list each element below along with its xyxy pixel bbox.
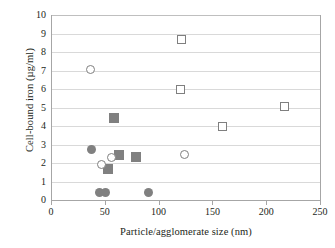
x-tick-label: 0 xyxy=(36,207,66,217)
y-tick-label: 2 xyxy=(24,158,46,168)
x-tick-label: 250 xyxy=(305,207,335,217)
plot-right-border xyxy=(320,15,321,201)
gridline-y xyxy=(51,89,320,90)
data-point-filled-circle xyxy=(87,145,96,154)
y-tick-label: 7 xyxy=(24,66,46,76)
data-point-open-square xyxy=(176,85,185,94)
gridline-y xyxy=(51,182,320,183)
x-tick xyxy=(105,201,106,205)
x-tick-label: 50 xyxy=(90,207,120,217)
y-tick-label: 1 xyxy=(24,177,46,187)
data-point-filled-square xyxy=(109,113,119,123)
y-tick-label: 6 xyxy=(24,84,46,94)
data-point-filled-square xyxy=(131,152,141,162)
y-tick-label: 8 xyxy=(24,47,46,57)
x-tick xyxy=(159,201,160,205)
x-tick-label: 200 xyxy=(251,207,281,217)
data-point-open-square xyxy=(280,102,289,111)
data-point-open-circle xyxy=(107,153,116,162)
x-axis-line xyxy=(51,200,321,201)
y-axis-line xyxy=(51,15,52,201)
x-tick-label: 150 xyxy=(197,207,227,217)
gridline-y xyxy=(51,52,320,53)
gridline-y xyxy=(51,163,320,164)
y-tick-label: 10 xyxy=(24,10,46,20)
data-point-open-square xyxy=(177,35,186,44)
gridline-y xyxy=(51,126,320,127)
x-tick xyxy=(51,201,52,205)
data-point-open-circle xyxy=(86,65,95,74)
scatter-plot-figure: Cell-bound iron (µg/ml) Particle/agglome… xyxy=(0,0,335,248)
x-axis-title: Particle/agglomerate size (nm) xyxy=(51,226,321,237)
x-tick-label: 100 xyxy=(144,207,174,217)
y-tick-label: 5 xyxy=(24,103,46,113)
gridline-y xyxy=(51,15,320,16)
y-tick-label: 4 xyxy=(24,121,46,131)
x-tick xyxy=(320,201,321,205)
x-tick xyxy=(212,201,213,205)
y-tick-label: 3 xyxy=(24,140,46,150)
data-point-open-square xyxy=(218,122,227,131)
x-tick xyxy=(266,201,267,205)
y-tick-label: 0 xyxy=(24,195,46,205)
y-tick-label: 9 xyxy=(24,29,46,39)
